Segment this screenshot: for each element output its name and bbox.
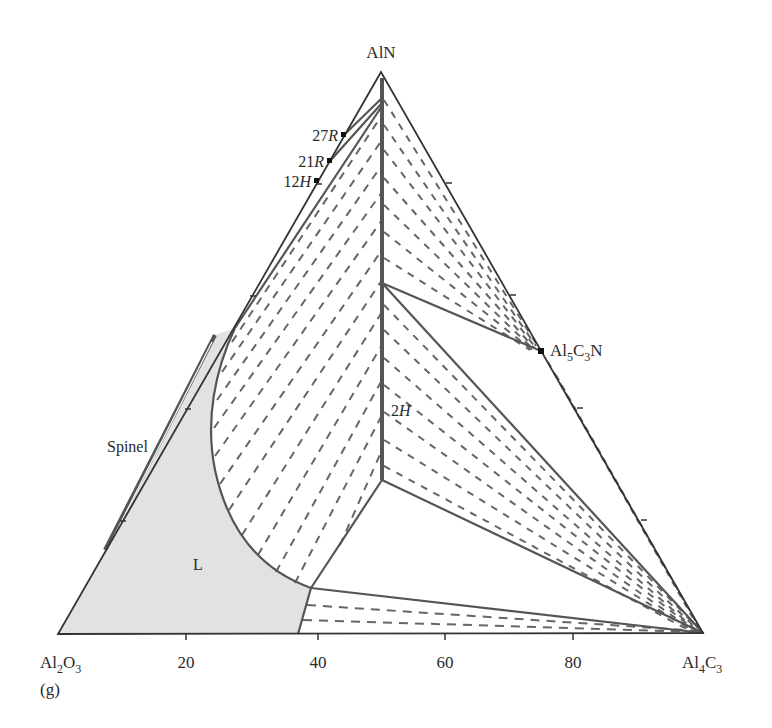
tie-lines-2h-al5c3n [384,100,537,350]
vertex-label-aln: AlN [366,43,395,62]
marker-21r [327,158,332,163]
marker-al5c3n [538,348,544,354]
liquid-region [58,328,311,634]
label-2h: 2H [391,402,412,419]
label-spinel: Spinel [107,438,148,456]
vertex-label-al2o3: Al2O3 [40,653,81,676]
right-edge-ticks [446,183,647,520]
bottom-axis-tick-labels: 20 40 60 80 [178,653,582,672]
tick-label-40: 40 [310,653,327,672]
panel-label: (g) [40,680,60,699]
label-liquid: L [193,556,203,573]
tick-label-20: 20 [178,653,195,672]
tick-label-80: 80 [565,653,582,672]
tick-label-60: 60 [437,653,454,672]
marker-27r [341,132,346,137]
tie-lines-2h-al4c3 [384,305,698,632]
label-27r: 27R [312,127,338,144]
label-12h: 12H [283,173,312,190]
ternary-phase-diagram: AlN Al2O3 Al4C3 (g) 20 40 60 80 27R 21R … [0,0,772,728]
label-al5c3n: Al5C3N [550,341,603,364]
label-21r: 21R [298,153,324,170]
marker-12h [314,178,319,183]
vertex-label-al4c3: Al4C3 [682,653,722,676]
bottom-axis-ticks [186,634,573,640]
